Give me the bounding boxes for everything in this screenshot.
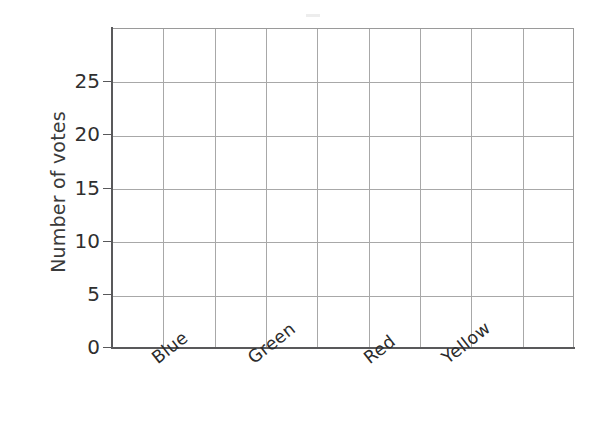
horizontal-gridline <box>112 296 573 297</box>
scan-artifact <box>306 14 320 17</box>
y-axis-tick <box>103 241 113 242</box>
horizontal-gridline <box>112 189 573 190</box>
horizontal-gridline <box>112 82 573 83</box>
horizontal-gridline <box>112 242 573 243</box>
y-axis-tick <box>103 188 113 189</box>
plot-area <box>112 28 574 348</box>
y-axis-tick <box>103 134 113 135</box>
y-axis-tick <box>103 81 113 82</box>
y-axis-label-5: 5 <box>0 284 100 304</box>
y-axis-tick <box>103 294 113 295</box>
y-axis-label-0: 0 <box>0 337 100 357</box>
bar-chart-figure: Number of votes 25 20 15 10 5 0 <box>0 0 600 429</box>
horizontal-gridline <box>112 136 573 137</box>
y-axis-label-20: 20 <box>0 124 100 144</box>
y-axis-tick <box>103 347 113 348</box>
y-axis-label-25: 25 <box>0 71 100 91</box>
y-axis-label-15: 15 <box>0 178 100 198</box>
y-axis-label-10: 10 <box>0 231 100 251</box>
